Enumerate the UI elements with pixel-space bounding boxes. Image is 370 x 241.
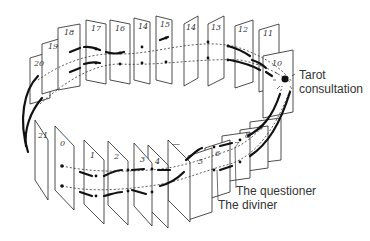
svg-text:13: 13 [211,23,221,32]
svg-text:1: 1 [90,151,95,160]
consultation-word: consultation [299,82,363,96]
questioner-label: The questioner [236,184,316,198]
svg-text:20: 20 [33,59,44,68]
svg-text:15: 15 [160,20,170,29]
svg-text:3: 3 [140,155,145,164]
svg-text:2: 2 [113,152,119,161]
svg-text:17: 17 [91,24,102,33]
svg-text:14: 14 [138,22,148,31]
svg-text:10: 10 [272,59,282,68]
tarot-consultation-label: Tarot consultation [299,68,363,96]
svg-text:11: 11 [263,29,273,38]
svg-text:21: 21 [37,131,48,140]
svg-text:4: 4 [154,157,160,166]
svg-text:16: 16 [115,24,125,33]
tarot-word: Tarot [299,68,363,82]
svg-text:14: 14 [186,23,196,32]
svg-text:18: 18 [64,28,74,37]
diviner-label: The diviner [218,198,277,212]
svg-text:0: 0 [60,139,65,148]
svg-text:—: — [172,139,180,148]
svg-text:12: 12 [238,25,248,34]
diagram-canvas: 20 19 18 17 16 14 15 14 13 12 11 10 9 8 … [0,0,370,241]
svg-text:5: 5 [198,157,203,166]
svg-text:19: 19 [48,42,58,51]
svg-text:6: 6 [215,149,220,158]
